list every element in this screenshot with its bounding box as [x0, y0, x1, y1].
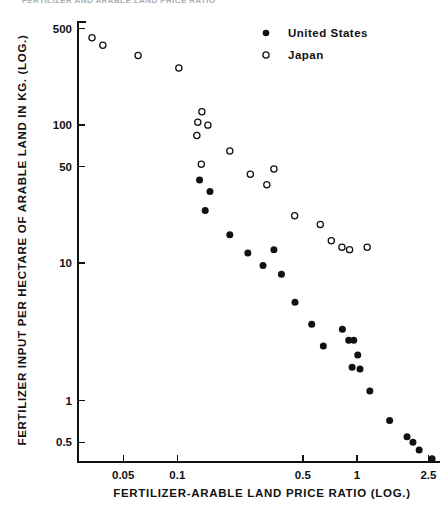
data-point — [346, 247, 352, 253]
y-tick-label: 500 — [53, 23, 72, 35]
x-tick-label: 1 — [354, 469, 361, 481]
data-point — [270, 246, 277, 253]
data-point — [205, 122, 211, 128]
data-point — [308, 321, 315, 328]
data-point — [199, 109, 205, 115]
data-point — [89, 35, 95, 41]
data-point — [264, 182, 270, 188]
data-point — [349, 364, 356, 371]
data-point — [386, 417, 393, 424]
data-point — [271, 166, 277, 172]
data-point — [100, 42, 106, 48]
data-point — [226, 231, 233, 238]
data-point — [198, 161, 204, 167]
data-point — [429, 455, 436, 462]
y-tick-label: 1 — [66, 395, 73, 407]
data-point — [227, 148, 233, 154]
x-axis-ticks — [123, 455, 428, 462]
data-points-group — [89, 35, 436, 463]
axes-group — [78, 22, 440, 462]
data-point — [409, 439, 416, 446]
data-point — [320, 342, 327, 349]
y-tick-label: 50 — [59, 161, 72, 173]
data-point — [195, 119, 201, 125]
legend: United StatesJapan — [263, 27, 368, 61]
legend-marker — [263, 52, 269, 58]
scatter-plot: 0.050.10.512.5 0.511050100500 FERTILIZER… — [0, 0, 447, 510]
data-point — [350, 337, 357, 344]
data-point — [366, 387, 373, 394]
y-axis-tick-labels: 0.511050100500 — [53, 23, 73, 449]
data-point — [278, 271, 285, 278]
data-point — [416, 446, 423, 453]
y-tick-label: 0.5 — [56, 436, 73, 448]
data-point — [292, 213, 298, 219]
data-point — [357, 366, 364, 373]
data-point — [339, 244, 345, 250]
axis-lines — [78, 22, 440, 462]
data-point — [196, 176, 203, 183]
data-point — [194, 132, 200, 138]
y-axis-title: FERTILIZER INPUT PER HECTARE OF ARABLE L… — [16, 34, 28, 445]
data-point — [354, 352, 361, 359]
x-tick-label: 0.05 — [112, 469, 135, 481]
data-point — [244, 250, 251, 257]
legend-label: United States — [288, 27, 368, 39]
legend-marker — [263, 30, 270, 37]
data-point — [291, 299, 298, 306]
y-axis-ticks — [78, 29, 85, 443]
data-point — [328, 238, 334, 244]
legend-label: Japan — [288, 49, 324, 61]
x-tick-label: 2.5 — [420, 469, 437, 481]
series-united-states — [196, 176, 436, 462]
data-point — [247, 171, 253, 177]
data-point — [364, 244, 370, 250]
series-japan — [89, 35, 370, 253]
data-point — [260, 262, 267, 269]
data-point — [202, 207, 209, 214]
x-tick-label: 0.5 — [295, 469, 312, 481]
data-point — [404, 433, 411, 440]
data-point — [176, 65, 182, 71]
y-tick-label: 10 — [59, 257, 72, 269]
data-point — [135, 52, 141, 58]
x-tick-label: 0.1 — [169, 469, 186, 481]
data-point — [206, 188, 213, 195]
x-axis-tick-labels: 0.050.10.512.5 — [112, 469, 437, 481]
data-point — [339, 326, 346, 333]
y-tick-label: 100 — [53, 119, 72, 131]
data-point — [317, 221, 323, 227]
x-axis-title: FERTILIZER-ARABLE LAND PRICE RATIO (LOG.… — [113, 487, 410, 499]
figure-container: FERTILIZER AND ARABLE LAND PRICE RATIO 0… — [0, 0, 447, 510]
